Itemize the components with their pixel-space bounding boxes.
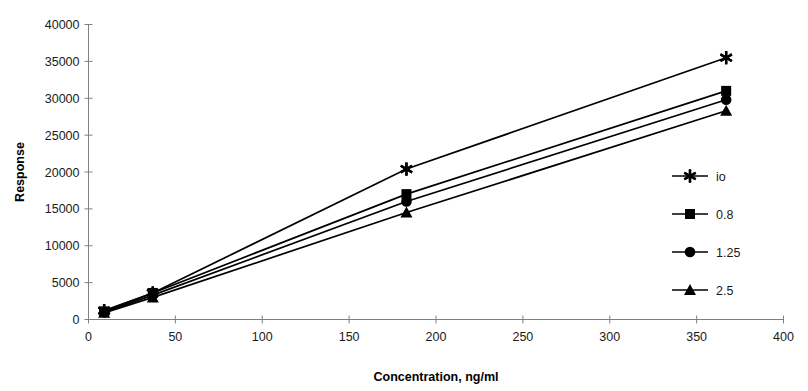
x-axis-tick-label: 250	[512, 330, 533, 344]
data-point-io	[720, 51, 731, 64]
y-axis-tick-label: 0	[73, 313, 80, 327]
y-axis-tick-label: 25000	[45, 129, 80, 143]
x-axis-tick-label: 200	[426, 330, 447, 344]
legend-entry-2.5[interactable]: 2.5	[672, 284, 733, 298]
legend-marker-circle	[685, 247, 696, 258]
square-marker	[685, 209, 695, 219]
circle-marker	[721, 94, 732, 105]
y-axis-tick-label: 20000	[45, 166, 80, 180]
legend-entry-1.25[interactable]: 1.25	[672, 246, 740, 260]
triangle-marker	[720, 105, 732, 116]
data-point-1.25	[401, 196, 412, 207]
data-point-1.25	[721, 94, 732, 105]
series-line-1.25	[104, 100, 726, 312]
x-axis-tick-label: 300	[599, 330, 620, 344]
x-axis-tick-label: 0	[85, 330, 92, 344]
legend-label-io: io	[716, 170, 726, 184]
y-axis-tick-label: 15000	[45, 202, 80, 216]
line-chart-plot: 0501001502002503003504000500010000150002…	[0, 0, 808, 391]
data-point-io	[401, 162, 412, 175]
y-axis-tick-label: 5000	[52, 276, 80, 290]
square-marker	[721, 86, 731, 96]
y-axis-tick-label: 35000	[45, 55, 80, 69]
legend-label-2.5: 2.5	[716, 284, 733, 298]
circle-marker	[685, 247, 696, 258]
series-line-2.5	[104, 111, 726, 313]
legend-entry-0.8[interactable]: 0.8	[672, 208, 733, 222]
legend-label-0.8: 0.8	[716, 208, 733, 222]
data-point-0.8	[721, 86, 731, 96]
x-axis-tick-label: 50	[168, 330, 182, 344]
legend-marker-square	[685, 209, 695, 219]
legend-label-1.25: 1.25	[716, 246, 740, 260]
y-axis-tick-label: 40000	[45, 18, 80, 32]
circle-marker	[401, 196, 412, 207]
legend-entry-io[interactable]: io	[672, 169, 726, 183]
y-axis-tick-label: 10000	[45, 239, 80, 253]
y-axis-title: Response	[13, 142, 27, 202]
x-axis-tick-label: 100	[252, 330, 273, 344]
series-line-io	[104, 58, 726, 311]
chart-container: 0501001502002503003504000500010000150002…	[0, 0, 808, 391]
x-axis-tick-label: 350	[686, 330, 707, 344]
data-point-2.5	[720, 105, 732, 116]
x-axis-tick-label: 150	[339, 330, 360, 344]
y-axis-tick-label: 30000	[45, 92, 80, 106]
x-axis-tick-label: 400	[773, 330, 794, 344]
x-axis-title: Concentration, ng/ml	[374, 370, 499, 384]
